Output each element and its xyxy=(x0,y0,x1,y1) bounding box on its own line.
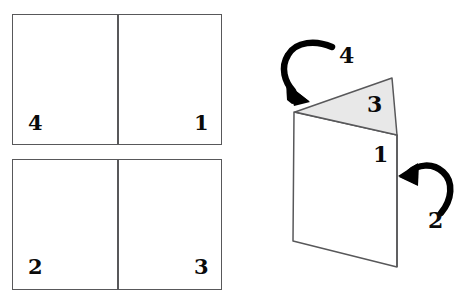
diagram-canvas: 4 1 2 3 3 1 4 2 xyxy=(0,0,469,298)
folded-card-flap-label: 3 xyxy=(367,93,382,115)
arrow-2-icon xyxy=(398,163,450,213)
folded-card-illustration xyxy=(0,0,469,298)
folded-card-front-label: 1 xyxy=(373,143,388,165)
arrow-4-label: 4 xyxy=(339,44,354,66)
folded-card-front-panel xyxy=(293,112,397,267)
arrow-2-label: 2 xyxy=(428,209,443,231)
arrow-4-icon xyxy=(284,43,332,106)
